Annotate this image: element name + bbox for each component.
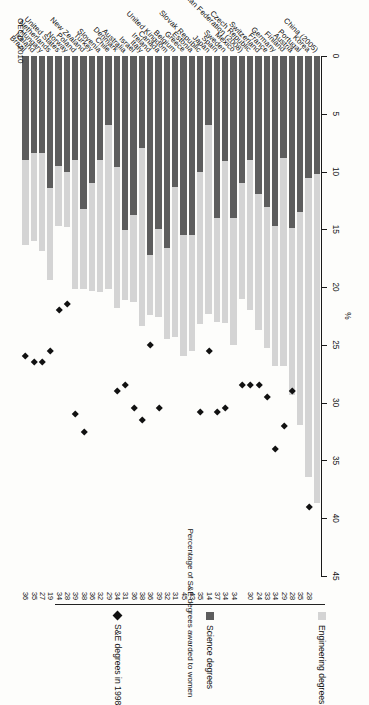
legend-label-engineering: Engineering degrees: [317, 625, 327, 704]
marker-se-1998: [280, 422, 288, 430]
marker-se-1998: [80, 428, 88, 436]
legend-label-science: Science degrees: [205, 625, 215, 689]
value-column-cell: 38: [79, 592, 88, 600]
stacked-bar: [230, 56, 236, 345]
bar-row: United States34: [55, 56, 63, 576]
bar-row: China (2005): [313, 56, 321, 576]
marker-se-1998: [113, 387, 121, 395]
x-axis-tick-label: 45: [331, 571, 340, 580]
x-axis-tick-label: 0: [331, 54, 340, 59]
stacked-bar: [22, 56, 28, 246]
value-column-cell: 19: [46, 592, 55, 600]
source-note: OECD, 2010: [16, 18, 25, 63]
x-axis-tick-label: 40: [331, 514, 340, 523]
value-column-cell: 32: [96, 592, 105, 600]
stacked-bar: [255, 56, 261, 330]
marker-se-1998: [196, 408, 204, 416]
stacked-bar: [280, 56, 286, 366]
bar-segment-engineering: [222, 161, 228, 323]
marker-se-1998: [121, 382, 129, 390]
bar-segment-engineering: [114, 167, 120, 308]
bar-segment-science: [247, 56, 253, 160]
stacked-bar: [289, 56, 295, 395]
marker-se-1998: [55, 306, 63, 314]
bar-row: Israel36: [129, 56, 137, 576]
marker-se-1998: [155, 405, 163, 413]
value-column-cell: 33: [262, 592, 271, 600]
value-column-cell: 34: [229, 592, 238, 600]
stacked-bar: [272, 56, 278, 366]
bar-segment-engineering: [89, 183, 95, 290]
bar-segment-engineering: [80, 209, 86, 290]
x-axis-tick: [321, 229, 327, 230]
bar-row: Denmark34: [113, 56, 121, 576]
bar-segment-science: [180, 56, 186, 235]
bar-row: Slovenia32: [96, 56, 104, 576]
bar-segment-engineering: [197, 172, 203, 325]
x-axis-tick: [321, 172, 327, 173]
bar-segment-science: [164, 56, 170, 248]
bar-segment-science: [255, 56, 261, 194]
bar-segment-science: [47, 56, 53, 188]
stacked-bar: [114, 56, 120, 308]
value-column-cell: 31: [121, 592, 130, 600]
stacked-bar: [64, 56, 70, 227]
bar-segment-engineering: [172, 187, 178, 337]
bar-segment-engineering: [56, 166, 62, 226]
legend-label-se1998: S&E degrees in 1998: [113, 624, 123, 705]
marker-se-1998: [72, 410, 80, 418]
bar-segment-science: [155, 56, 161, 229]
bar-segment-science: [289, 56, 295, 228]
bar-row: Ireland36: [146, 56, 154, 576]
legend-swatch-science: [206, 612, 214, 620]
value-column-cell: 14: [204, 592, 213, 600]
value-column-cell: 29: [104, 592, 113, 600]
stacked-bar: [305, 56, 311, 477]
bar-segment-science: [114, 56, 120, 167]
bar-row: Greece45: [179, 56, 187, 576]
x-axis-tick-label: 15: [331, 225, 340, 234]
value-column-cell: 36: [87, 592, 96, 600]
bar-segment-engineering: [297, 212, 303, 425]
stacked-bar: [105, 56, 111, 289]
stacked-bar-chart: % 051015202530354045 China (2005)Korea28…: [35, 56, 335, 576]
axis-unit-label: %: [343, 312, 352, 319]
value-column-cell: 24: [254, 592, 263, 600]
value-column-cell: 31: [171, 592, 180, 600]
bar-segment-science: [97, 56, 103, 160]
bar-segment-science: [205, 56, 211, 125]
x-axis: % 051015202530354045: [321, 56, 335, 576]
value-column-cell: 39: [71, 592, 80, 600]
bar-segment-engineering: [272, 226, 278, 366]
bar-row: Iceland35: [30, 56, 38, 576]
x-axis-tick: [321, 56, 327, 57]
bar-row: Chile29: [104, 56, 112, 576]
bar-segment-science: [139, 56, 145, 148]
bar-segment-engineering: [164, 248, 170, 339]
bar-segment-science: [130, 56, 136, 215]
stacked-bar: [147, 56, 153, 315]
bar-row: Portugal35: [296, 56, 304, 576]
stacked-bar: [222, 56, 228, 323]
bar-segment-science: [189, 56, 195, 235]
bar-segment-science: [56, 56, 62, 166]
stacked-bar: [155, 56, 161, 317]
bar-row: United Kingdom32: [163, 56, 171, 576]
stacked-bar: [47, 56, 53, 280]
bar-rows: China (2005)Korea28Portugal35Austria28Fi…: [35, 56, 321, 576]
legend-item-engineering: Engineering degrees: [317, 612, 327, 704]
bar-segment-engineering: [280, 158, 286, 366]
value-column-cell: 35: [296, 592, 305, 600]
bar-row: Mexico34: [229, 56, 237, 576]
stacked-bar: [197, 56, 203, 324]
stacked-bar: [314, 56, 320, 503]
bar-segment-engineering: [305, 178, 311, 476]
value-column-cell: 39: [154, 592, 163, 600]
bar-segment-science: [305, 56, 311, 178]
bar-segment-engineering: [39, 153, 45, 251]
value-column-cell: 36: [129, 592, 138, 600]
marker-se-1998: [263, 393, 271, 401]
value-column-cell: 38: [137, 592, 146, 600]
bar-row: Germany34: [271, 56, 279, 576]
bar-segment-engineering: [180, 235, 186, 356]
